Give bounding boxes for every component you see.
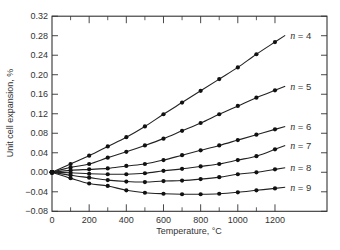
y-axis-title: Unit cell expansion, % <box>5 69 15 158</box>
data-point <box>217 143 221 147</box>
data-point <box>254 170 258 174</box>
series-line-6 <box>50 126 286 174</box>
x-axis-title: Temperature, °C <box>156 226 222 236</box>
data-point <box>87 167 91 171</box>
y-tick-label: 0.00 <box>30 167 48 177</box>
data-point <box>124 179 128 183</box>
data-point <box>87 154 91 158</box>
data-point <box>254 96 258 100</box>
data-point <box>106 166 110 170</box>
data-point <box>106 178 110 182</box>
y-tick-label: 0.12 <box>30 109 48 119</box>
y-tick-label: −0.04 <box>25 187 48 197</box>
data-point <box>180 192 184 196</box>
data-point <box>217 192 221 196</box>
series-label-6: n = 6 <box>290 121 311 132</box>
series-label-5: n = 5 <box>290 81 311 92</box>
y-tick-label: 0.08 <box>30 128 48 138</box>
data-point <box>161 158 165 162</box>
data-point <box>180 129 184 133</box>
data-point <box>273 40 277 44</box>
series-label-4: n = 4 <box>290 30 311 41</box>
data-point <box>143 180 147 184</box>
data-point <box>161 137 165 141</box>
data-point <box>87 181 91 185</box>
data-point <box>199 121 203 125</box>
data-point <box>236 172 240 176</box>
data-point <box>143 191 147 195</box>
x-tick-label: 800 <box>193 215 208 225</box>
data-point <box>236 190 240 194</box>
series-group <box>50 35 286 196</box>
data-point <box>254 154 258 158</box>
data-point <box>254 52 258 56</box>
curve <box>52 126 285 172</box>
data-point <box>143 162 147 166</box>
origin-point <box>50 170 55 175</box>
data-point <box>273 88 277 92</box>
data-point <box>124 150 128 154</box>
y-tick-label: 0.20 <box>30 70 48 80</box>
data-point <box>199 177 203 181</box>
data-point <box>180 178 184 182</box>
y-tick-label: −0.08 <box>25 206 48 216</box>
series-label-7: n = 7 <box>290 140 311 151</box>
y-tick-label: 0.04 <box>30 148 48 158</box>
x-tick-label: 400 <box>119 215 134 225</box>
data-point <box>199 148 203 152</box>
x-tick-label: 200 <box>82 215 97 225</box>
series-line-7 <box>50 146 286 177</box>
x-tick-label: 0 <box>49 215 54 225</box>
y-tick-label: 0.16 <box>30 89 48 99</box>
data-point <box>124 172 128 176</box>
curve <box>52 172 285 194</box>
data-point <box>106 172 110 176</box>
curve <box>52 146 285 175</box>
data-point <box>143 171 147 175</box>
curve <box>52 86 285 172</box>
data-point <box>106 184 110 188</box>
data-point <box>124 188 128 192</box>
data-point <box>236 158 240 162</box>
data-point <box>161 179 165 183</box>
data-point <box>124 164 128 168</box>
data-point <box>273 127 277 131</box>
data-point <box>217 77 221 81</box>
series-label-8: n = 8 <box>290 162 311 173</box>
data-point <box>87 176 91 180</box>
y-tick-label: 0.24 <box>30 50 48 60</box>
data-point <box>161 112 165 116</box>
data-point <box>180 100 184 104</box>
series-line-4 <box>50 35 286 174</box>
data-point <box>254 188 258 192</box>
unit-cell-expansion-chart: −0.08−0.040.000.040.080.120.160.200.240.… <box>0 0 340 250</box>
data-point <box>199 89 203 93</box>
x-tick-label: 1000 <box>228 215 248 225</box>
y-tick-label: 0.32 <box>30 11 48 21</box>
data-point <box>106 144 110 148</box>
data-point <box>199 192 203 196</box>
data-point <box>236 104 240 108</box>
data-point <box>217 162 221 166</box>
data-point <box>106 156 110 160</box>
x-tick-label: 1200 <box>265 215 285 225</box>
data-point <box>68 176 72 180</box>
data-point <box>87 162 91 166</box>
data-point <box>217 175 221 179</box>
data-point <box>124 135 128 139</box>
data-point <box>87 172 91 176</box>
data-point <box>217 112 221 116</box>
data-point <box>161 192 165 196</box>
data-point <box>180 167 184 171</box>
data-point <box>273 186 277 190</box>
x-tick-label: 600 <box>156 215 171 225</box>
data-point <box>273 147 277 151</box>
data-point <box>180 153 184 157</box>
curve <box>52 35 285 172</box>
axes: −0.08−0.040.000.040.080.120.160.200.240.… <box>25 11 327 225</box>
data-point <box>199 164 203 168</box>
series-label-9: n = 9 <box>290 182 311 193</box>
data-point <box>236 138 240 142</box>
data-point <box>143 124 147 128</box>
data-point <box>161 169 165 173</box>
